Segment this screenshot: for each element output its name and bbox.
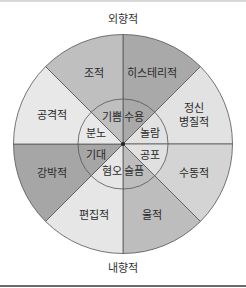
axis-label-bottom: 내향적 bbox=[108, 262, 138, 275]
inner-sector-label: 기쁨 bbox=[102, 111, 122, 124]
inner-sector-label: 놀람 bbox=[140, 127, 160, 140]
divider-lines bbox=[121, 142, 125, 146]
outer-sector-label: 공격적 bbox=[37, 109, 67, 122]
inner-sector-label: 분노 bbox=[86, 127, 106, 140]
outer-sector-label: 강박적 bbox=[37, 167, 67, 180]
outer-sector-label: 울적 bbox=[142, 209, 162, 222]
inner-sector-label: 공포 bbox=[140, 149, 160, 162]
outer-sector-label: 병질적 bbox=[179, 116, 209, 129]
emotion-personality-wheel: 히스테리적정신병질적수동적울적편집적강박적공격적조적수용놀람공포슬픔혐오기대분노… bbox=[0, 0, 246, 288]
outer-sector-label: 히스테리적 bbox=[127, 66, 177, 80]
outer-sector-label: 정신 bbox=[184, 102, 204, 115]
inner-sector-label: 슬픔 bbox=[124, 165, 144, 178]
outer-sector-label: 조적 bbox=[84, 67, 104, 80]
inner-sector-label: 수용 bbox=[124, 111, 144, 124]
inner-sector-label: 기대 bbox=[86, 149, 106, 162]
outer-sector-label: 수동적 bbox=[179, 167, 209, 180]
outer-sector-label: 편집적 bbox=[79, 209, 109, 222]
axis-label-top: 외향적 bbox=[108, 13, 138, 26]
inner-sector-label: 혐오 bbox=[102, 165, 122, 178]
bottom-border bbox=[0, 285, 246, 287]
